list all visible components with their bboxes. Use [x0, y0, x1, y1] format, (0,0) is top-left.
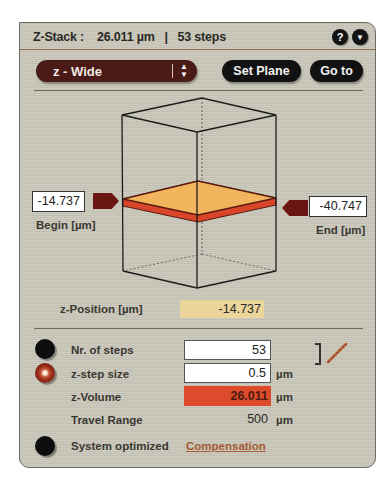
- begin-value-field[interactable]: -14.737: [32, 191, 85, 212]
- end-value-field[interactable]: -40.747: [309, 196, 367, 217]
- system-optimized-label: System optimized: [71, 440, 169, 452]
- z-position-value: -14.737: [180, 300, 264, 318]
- volume-unit: µm: [276, 391, 293, 403]
- z-stack-panel: Z-Stack : 26.011 µm | 53 steps ? ▼ z - W…: [19, 22, 376, 468]
- travel-range-label: Travel Range: [71, 414, 143, 426]
- focus-plane: [123, 181, 276, 222]
- travel-range-value: 500: [184, 412, 268, 426]
- radio-z-step-size[interactable]: [35, 363, 55, 383]
- chain-link-icon[interactable]: [324, 340, 350, 366]
- link-bracket: [315, 343, 321, 365]
- volume-label: z-Volume: [71, 391, 121, 403]
- travel-range-unit: µm: [276, 414, 293, 426]
- step-size-unit: µm: [276, 368, 293, 380]
- compensation-link[interactable]: Compensation: [186, 440, 266, 452]
- steps-input[interactable]: 53: [184, 340, 271, 360]
- end-label: End [µm]: [316, 224, 365, 236]
- step-size-label: z-step size: [71, 368, 129, 380]
- begin-label: Begin [µm]: [36, 219, 96, 231]
- radio-system-optimized[interactable]: [35, 436, 55, 456]
- steps-label: Nr. of steps: [71, 344, 134, 356]
- volume-input[interactable]: 26.011: [184, 386, 271, 406]
- step-size-input[interactable]: 0.5: [184, 363, 271, 383]
- z-position-label: z-Position [µm]: [60, 303, 143, 315]
- radio-nr-of-steps[interactable]: [35, 339, 55, 359]
- z-position-divider: [34, 328, 363, 329]
